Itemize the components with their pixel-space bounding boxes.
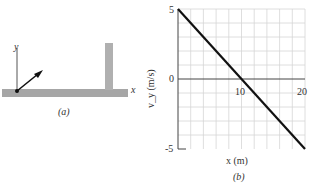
x-axis-title: x (m) <box>226 155 248 167</box>
figure-a: y x (a) <box>2 41 136 118</box>
y-axis-title: v_y (m/s) <box>145 69 157 108</box>
wall <box>105 43 113 90</box>
caption-a: (a) <box>58 106 70 118</box>
figure-canvas: y x (a) 5 0 -5 10 20 v_y (m/s) <box>0 0 312 185</box>
y-tick-0: 0 <box>169 73 174 84</box>
x-axis-label: x <box>130 84 136 95</box>
x-tick-20: 20 <box>297 86 307 97</box>
x-tick-10: 10 <box>235 86 245 97</box>
y-tick-neg5: -5 <box>165 143 173 154</box>
floor <box>2 89 128 97</box>
y-tick-5: 5 <box>169 4 174 15</box>
velocity-arrow-icon <box>17 74 38 91</box>
y-axis-label: y <box>13 41 19 52</box>
caption-b: (b) <box>233 171 245 183</box>
